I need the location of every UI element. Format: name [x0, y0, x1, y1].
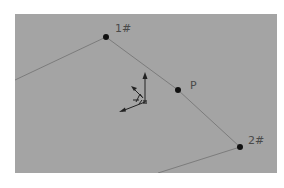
coordinate-triad-icon: [119, 72, 148, 112]
point-2-label: 2#: [248, 135, 264, 146]
point-2[interactable]: [237, 144, 243, 150]
curve-polyline[interactable]: [15, 37, 240, 173]
point-p[interactable]: [175, 87, 181, 93]
3d-viewport[interactable]: 1# P 2#: [15, 14, 277, 173]
point-1-label: 1#: [115, 23, 131, 34]
point-1[interactable]: [103, 34, 109, 40]
point-p-label: P: [190, 80, 197, 91]
scene-canvas: [15, 14, 277, 173]
